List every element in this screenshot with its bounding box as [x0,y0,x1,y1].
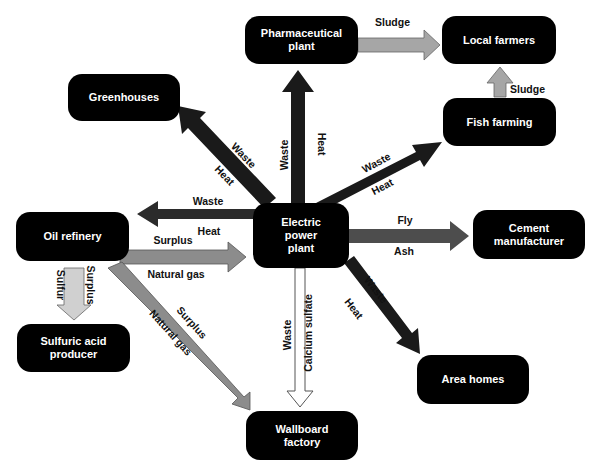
label-sulfur-sulfur: Sulfur [55,270,67,300]
node-electric-power-plant: Electric power plant [253,203,349,268]
node-fish-farming: Fish farming [443,98,556,146]
label-homes-heat: Heat [342,296,366,322]
arrow-plant-to-pharma [282,70,314,205]
node-local-farmers: Local farmers [442,16,556,64]
node-sulfuric-acid-producer: Sulfuric acid producer [17,324,130,372]
label-ash: Ash [394,245,414,257]
label-wall-waste: Waste [281,320,293,351]
industrial-ecosystem-diagram: Sludge Sludge Waste Heat Waste Heat Wast… [0,0,594,475]
node-oil-refinery: Oil refinery [16,212,129,261]
arrow-pharma-to-farmers [358,30,440,60]
label-pharma-waste: Waste [278,140,290,171]
arrow-plant-to-fish [316,142,442,212]
node-pharmaceutical-plant: Pharmaceutical plant [245,16,358,64]
arrow-plant-to-greenhouses [178,106,276,208]
label-pharma-heat: Heat [316,133,328,156]
label-fly: Fly [397,214,412,226]
label-oil-waste: Waste [193,195,224,207]
node-area-homes: Area homes [417,355,529,404]
label-wall-calcium: Calcium sulfate [302,294,314,372]
label-sulfur-surplus: Surplus [85,265,97,304]
label-gas-natural: Natural gas [147,268,204,280]
label-oil-heat: Heat [198,225,221,237]
node-cement-manufacturer: Cement manufacturer [473,210,585,259]
node-wallboard-factory: Wallboard factory [246,411,358,460]
label-sludge-right: Sludge [510,83,545,95]
node-greenhouses: Greenhouses [68,74,180,121]
label-gas-surplus: Surplus [153,234,192,246]
label-sludge-top: Sludge [375,16,410,28]
